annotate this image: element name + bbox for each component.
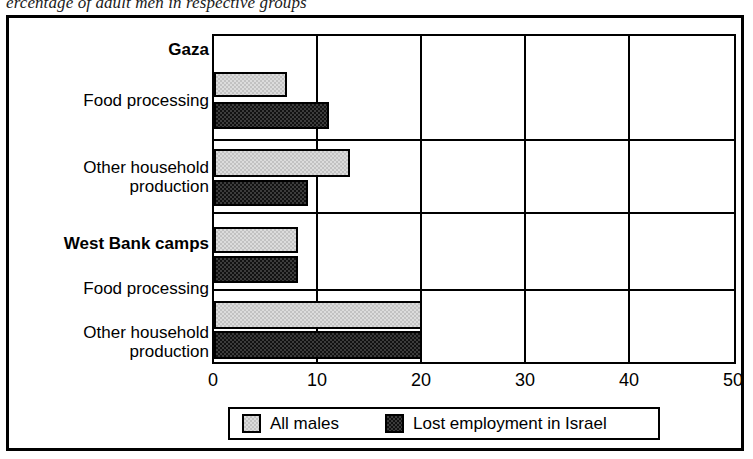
x-tick-label-0: 0 — [208, 370, 218, 391]
legend-label-lost-employment: Lost employment in Israel — [413, 414, 607, 434]
x-tick-label-50: 50 — [723, 370, 743, 391]
x-tick-label-40: 40 — [619, 370, 639, 391]
gridline-row-sep-1 — [214, 139, 734, 141]
bar-wb-other-lost-employment — [214, 331, 422, 359]
bar-wb-food-lost-employment — [214, 256, 298, 283]
gridline-x-30 — [524, 36, 526, 362]
bar-wb-food-all-males — [214, 227, 298, 253]
category-label-wb-other: Other household production — [83, 323, 209, 361]
x-tick-label-10: 10 — [307, 370, 327, 391]
category-label-gaza-food: Food processing — [83, 91, 209, 110]
bar-wb-other-all-males — [214, 301, 422, 329]
bar-gaza-other-lost-employment — [214, 180, 308, 206]
gridline-x-40 — [628, 36, 630, 362]
legend-label-all-males: All males — [270, 414, 339, 434]
group-label-gaza: Gaza — [168, 40, 209, 59]
group-label-west-bank-camps: West Bank camps — [64, 234, 209, 253]
category-label-column: Gaza Food processing Other household pro… — [9, 34, 209, 364]
plot-area — [212, 34, 736, 364]
legend-swatch-lost-employment — [385, 414, 404, 433]
legend-item-lost-employment: Lost employment in Israel — [385, 414, 607, 434]
legend-item-all-males: All males — [242, 414, 339, 434]
chart-legend: All males Lost employment in Israel — [228, 407, 660, 440]
gridline-row-sep-2 — [214, 212, 734, 214]
bar-gaza-other-all-males — [214, 149, 350, 177]
x-tick-label-30: 30 — [515, 370, 535, 391]
figure-caption: ercentage of adult men in respective gro… — [6, 0, 566, 13]
chart-figure-frame: Gaza Food processing Other household pro… — [6, 15, 744, 451]
category-label-wb-food: Food processing — [83, 279, 209, 298]
bar-gaza-food-lost-employment — [214, 102, 329, 129]
bar-gaza-food-all-males — [214, 72, 287, 97]
category-label-gaza-other: Other household production — [83, 158, 209, 196]
gridline-row-sep-3 — [214, 289, 734, 291]
legend-swatch-all-males — [242, 414, 261, 433]
x-tick-label-20: 20 — [411, 370, 431, 391]
